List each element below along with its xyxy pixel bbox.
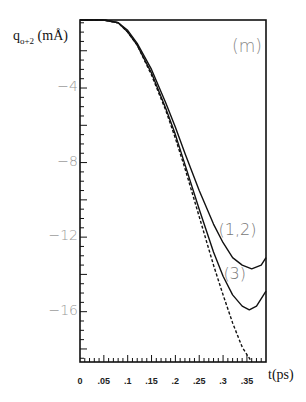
y-axis-label: qo+2 (mÅ) [13, 28, 68, 46]
y-tick-label: −8 [38, 153, 78, 169]
series-lines [80, 20, 266, 362]
y-axis-ticks [80, 23, 87, 358]
curve-label: (1,2) [219, 220, 257, 239]
y-tick-label: −16 [38, 302, 78, 318]
plot-frame [80, 20, 266, 362]
curve-label: (3) [223, 264, 246, 283]
panel-label: (m) [232, 36, 262, 56]
x-axis-ticks [85, 355, 261, 362]
series-line-dashed [80, 20, 252, 362]
x-axis-label: t(ps) [268, 367, 294, 383]
y-tick-label: −4 [38, 78, 78, 94]
chart-canvas [0, 0, 306, 402]
y-tick-label: −12 [38, 227, 78, 243]
x-tick-label: .35 [232, 376, 262, 386]
